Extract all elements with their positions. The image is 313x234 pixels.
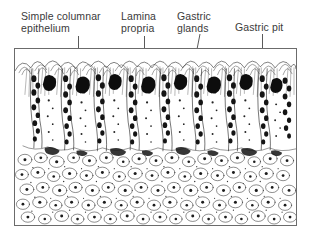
histology-figure: Simple columnar epithelium Lamina propri…: [0, 0, 313, 234]
label-gastric-glands: Gastric glands: [177, 11, 211, 34]
histology-drawing: [15, 49, 296, 225]
label-lamina-propria: Lamina propria: [121, 11, 156, 34]
label-simple-columnar-epithelium: Simple columnar epithelium: [21, 11, 101, 34]
histology-drawing-frame: [14, 48, 297, 226]
label-gastric-pit: Gastric pit: [235, 22, 283, 34]
